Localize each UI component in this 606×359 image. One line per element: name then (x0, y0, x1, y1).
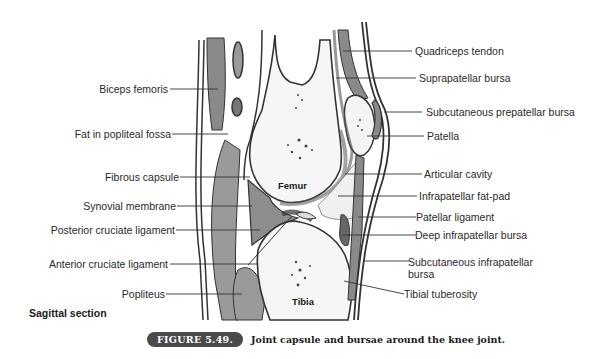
femur-label: Femur (278, 180, 307, 191)
label-fibrous-capsule: Fibrous capsule (105, 171, 179, 183)
label-quadriceps-tendon: Quadriceps tendon (415, 45, 504, 57)
section-title: Sagittal section (29, 307, 107, 319)
label-patellar-ligament: Patellar ligament (416, 211, 494, 223)
label-infrapatellar-fat-pad: Infrapatellar fat-pad (419, 190, 510, 202)
label-synovial-membrane: Synovial membrane (83, 200, 176, 212)
posterior-skin (196, 40, 208, 320)
patella-bone (345, 95, 375, 155)
label-deep-infrapatellar-bursa: Deep infrapatellar bursa (415, 229, 527, 241)
label-articular-cavity: Articular cavity (424, 168, 492, 180)
label-subcutaneous-infrapatellar-bursa: Subcutaneous infrapatellar bursa (408, 256, 548, 280)
label-suprapatellar-bursa: Suprapatellar bursa (419, 72, 511, 84)
figure-caption-text: Joint capsule and bursae around the knee… (251, 334, 505, 345)
femur-bone (250, 35, 342, 203)
figure-number-badge: FIGURE 5.49. (147, 332, 243, 347)
label-biceps-femoris: Biceps femoris (99, 83, 168, 95)
label-patella: Patella (427, 130, 459, 142)
label-subcutaneous-prepatellar-bursa: Subcutaneous prepatellar bursa (426, 106, 575, 118)
label-posterior-cruciate-ligament: Posterior cruciate ligament (51, 224, 175, 236)
label-popliteus: Popliteus (122, 288, 165, 300)
label-anterior-cruciate-ligament: Anterior cruciate ligament (49, 258, 168, 270)
label-fat-in-popliteal-fossa: Fat in popliteal fossa (75, 128, 171, 140)
biceps-femoris-muscle (207, 38, 225, 130)
tibia-label: Tibia (292, 296, 314, 307)
label-tibial-tuberosity: Tibial tuberosity (404, 288, 477, 300)
figure-caption: FIGURE 5.49. Joint capsule and bursae ar… (147, 332, 505, 347)
